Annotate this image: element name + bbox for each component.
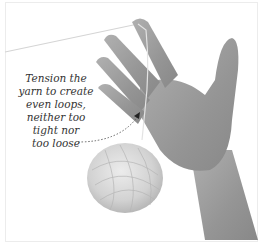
- callout-text: Tension the yarn to create even loops, n…: [14, 72, 98, 150]
- callout-line-2: yarn to create: [14, 85, 98, 98]
- callout-line-1: Tension the: [14, 72, 98, 85]
- callout-line-5: tight nor: [14, 124, 98, 137]
- yarn-ball: [87, 143, 163, 213]
- callout-line-4: neither too: [14, 111, 98, 124]
- callout-line-6: too loose: [14, 137, 98, 150]
- callout-line-3: even loops,: [14, 98, 98, 111]
- illustration-frame: Tension the yarn to create even loops, n…: [0, 0, 263, 245]
